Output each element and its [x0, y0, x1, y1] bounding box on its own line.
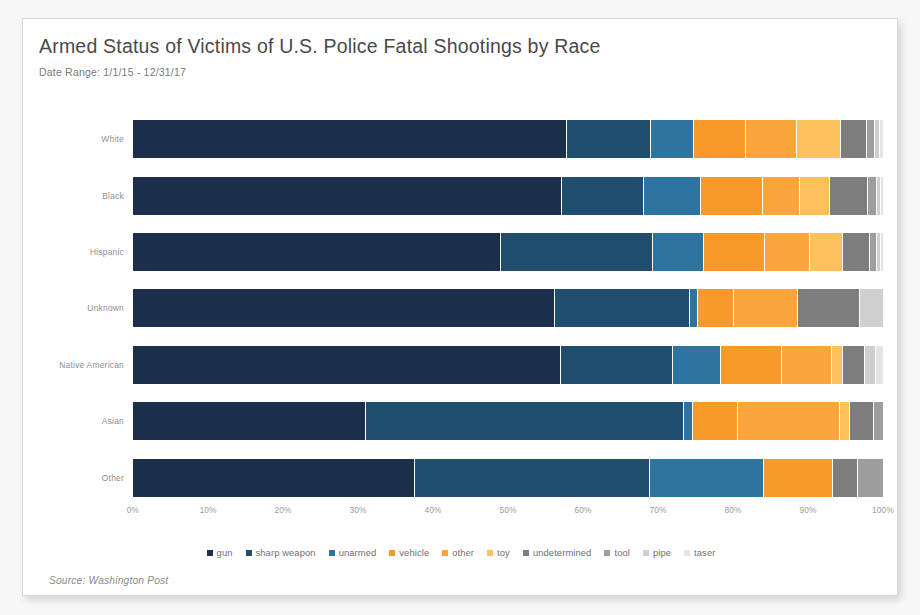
- bar-segment-pipe[interactable]: [860, 289, 883, 327]
- category-label: Native American: [39, 360, 133, 370]
- bar-segment-undetermined[interactable]: [798, 289, 860, 327]
- legend-item-vehicle[interactable]: vehicle: [389, 547, 429, 558]
- category-label: Unknown: [39, 303, 133, 313]
- bar-segment-sharp-weapon[interactable]: [415, 459, 651, 497]
- legend-label: unarmed: [339, 547, 377, 558]
- x-tick-label: 20%: [274, 505, 291, 515]
- bar-segment-undetermined[interactable]: [830, 177, 868, 215]
- legend-item-pipe[interactable]: pipe: [643, 547, 671, 558]
- x-tick-label: 0%: [127, 505, 139, 515]
- bar-segment-sharp-weapon[interactable]: [562, 177, 644, 215]
- stacked-bar: [133, 120, 883, 158]
- legend-item-undetermined[interactable]: undetermined: [523, 547, 592, 558]
- bar-row: Other: [39, 449, 883, 505]
- bar-segment-taser[interactable]: [876, 346, 883, 384]
- legend-item-tool[interactable]: tool: [604, 547, 630, 558]
- bar-segment-sharp-weapon[interactable]: [555, 289, 690, 327]
- bar-segment-other[interactable]: [765, 233, 811, 271]
- bar-segment-vehicle[interactable]: [694, 120, 746, 158]
- bar-segment-gun[interactable]: [133, 289, 555, 327]
- bar-segment-unarmed[interactable]: [684, 402, 693, 440]
- bar-segment-unarmed[interactable]: [644, 177, 702, 215]
- bar-segment-toy[interactable]: [840, 402, 850, 440]
- bar-segment-vehicle[interactable]: [721, 346, 782, 384]
- legend-swatch-icon: [487, 550, 493, 556]
- category-label: Black: [39, 191, 133, 201]
- category-label: Asian: [39, 416, 133, 426]
- legend-swatch-icon: [684, 550, 690, 556]
- bar-segment-gun[interactable]: [133, 233, 501, 271]
- category-label: White: [39, 134, 133, 144]
- bar-segment-unarmed[interactable]: [650, 459, 764, 497]
- legend-swatch-icon: [329, 550, 335, 556]
- legend-label: toy: [497, 547, 510, 558]
- x-tick-label: 40%: [424, 505, 441, 515]
- chart-subtitle: Date Range: 1/1/15 - 12/31/17: [39, 66, 601, 78]
- bar-segment-gun[interactable]: [133, 459, 415, 497]
- bar-segment-unarmed[interactable]: [690, 289, 698, 327]
- bar-segment-toy[interactable]: [800, 177, 830, 215]
- bar-segment-vehicle[interactable]: [764, 459, 833, 497]
- bar-segment-vehicle[interactable]: [701, 177, 763, 215]
- bar-segment-tool[interactable]: [858, 459, 883, 497]
- legend-item-sharp-weapon[interactable]: sharp weapon: [246, 547, 316, 558]
- bar-segment-pipe[interactable]: [865, 346, 876, 384]
- legend-item-toy[interactable]: toy: [487, 547, 510, 558]
- bar-segment-gun[interactable]: [133, 177, 562, 215]
- bar-segment-toy[interactable]: [797, 120, 841, 158]
- bar-segment-other[interactable]: [738, 402, 840, 440]
- stacked-bar: [133, 346, 883, 384]
- bar-segment-undetermined[interactable]: [843, 346, 865, 384]
- bar-segment-undetermined[interactable]: [843, 233, 869, 271]
- bar-segment-other[interactable]: [746, 120, 797, 158]
- bar-segment-toy[interactable]: [810, 233, 843, 271]
- bar-segment-tool[interactable]: [870, 233, 878, 271]
- bar-segment-gun[interactable]: [133, 346, 561, 384]
- x-tick-label: 80%: [724, 505, 741, 515]
- bar-segment-gun[interactable]: [133, 402, 366, 440]
- bar-segment-sharp-weapon[interactable]: [366, 402, 684, 440]
- legend-swatch-icon: [442, 550, 448, 556]
- bar-segment-taser[interactable]: [881, 233, 883, 271]
- x-tick-label: 60%: [574, 505, 591, 515]
- bar-segment-other[interactable]: [763, 177, 800, 215]
- bar-segment-undetermined[interactable]: [841, 120, 867, 158]
- stacked-bar: [133, 289, 883, 327]
- bar-segment-unarmed[interactable]: [651, 120, 695, 158]
- x-tick-label: 70%: [649, 505, 666, 515]
- plot-area: WhiteBlackHispanicUnknownNative American…: [39, 111, 883, 506]
- bar-segment-tool[interactable]: [867, 120, 875, 158]
- category-label: Hispanic: [39, 247, 133, 257]
- bar-segment-undetermined[interactable]: [850, 402, 874, 440]
- legend-swatch-icon: [643, 550, 649, 556]
- chart-card: Armed Status of Victims of U.S. Police F…: [22, 18, 898, 596]
- legend-item-other[interactable]: other: [442, 547, 474, 558]
- bar-segment-tool[interactable]: [868, 177, 877, 215]
- screenshot-page: Armed Status of Victims of U.S. Police F…: [0, 0, 920, 615]
- bar-segment-vehicle[interactable]: [693, 402, 739, 440]
- bar-segment-taser[interactable]: [880, 120, 883, 158]
- legend-label: undetermined: [533, 547, 592, 558]
- bar-segment-sharp-weapon[interactable]: [561, 346, 674, 384]
- bar-segment-other[interactable]: [734, 289, 798, 327]
- bar-segment-taser[interactable]: [881, 177, 883, 215]
- bar-segment-sharp-weapon[interactable]: [567, 120, 651, 158]
- bar-segment-vehicle[interactable]: [704, 233, 765, 271]
- legend-item-taser[interactable]: taser: [684, 547, 715, 558]
- bar-segment-unarmed[interactable]: [673, 346, 721, 384]
- legend-item-unarmed[interactable]: unarmed: [329, 547, 377, 558]
- bar-segment-gun[interactable]: [133, 120, 567, 158]
- x-tick-label: 10%: [199, 505, 216, 515]
- bar-segment-vehicle[interactable]: [698, 289, 734, 327]
- bar-segment-tool[interactable]: [874, 402, 883, 440]
- bar-segment-undetermined[interactable]: [833, 459, 858, 497]
- bar-segment-other[interactable]: [782, 346, 832, 384]
- bar-segment-unarmed[interactable]: [653, 233, 704, 271]
- legend-swatch-icon: [389, 550, 395, 556]
- legend-item-gun[interactable]: gun: [207, 547, 233, 558]
- category-label: Other: [39, 473, 133, 483]
- bar-segment-sharp-weapon[interactable]: [501, 233, 653, 271]
- bar-segment-toy[interactable]: [832, 346, 843, 384]
- legend-label: other: [452, 547, 474, 558]
- legend-label: taser: [694, 547, 715, 558]
